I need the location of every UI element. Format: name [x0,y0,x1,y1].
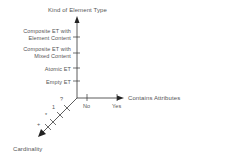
axes-graphic [0,0,227,160]
diagram-canvas: Kind of Element Type Composite ET with E… [0,0,227,160]
y-tick-composite-mixed-line2: Mixed Content [34,53,71,59]
z-tick-optional: ? [60,96,63,102]
x-tick-yes: Yes [112,103,121,109]
z-axis-title: Cardinality [13,146,42,152]
z-tick-zero-or-more: * [45,112,47,118]
y-tick-empty: Empty ET [46,79,71,85]
z-tick-one: 1 [52,104,55,110]
y-axis-title: Kind of Element Type [48,7,107,13]
z-tick-one-or-more: + [37,121,40,127]
y-tick-composite-element-line2: Element Content [29,35,71,41]
y-tick-composite-element-line1: Composite ET with [23,28,71,34]
x-tick-no: No [83,103,90,109]
y-tick-atomic: Atomic ET [45,66,71,72]
y-tick-composite-mixed-line1: Composite ET with [23,46,71,52]
x-axis-title: Contains Attributes [128,95,180,101]
